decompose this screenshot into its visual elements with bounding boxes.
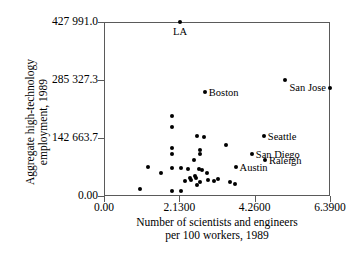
data-point <box>233 182 237 186</box>
y-axis-tick-label: 0.00 <box>0 190 98 202</box>
data-point <box>170 146 174 150</box>
x-axis-title-line1: Number of scientists and engineers <box>79 216 355 229</box>
data-point <box>195 134 199 138</box>
data-point <box>186 167 190 171</box>
data-point <box>170 125 174 129</box>
data-point <box>170 114 174 118</box>
data-point <box>216 177 220 181</box>
x-axis-title-line2: per 100 workers, 1989 <box>79 229 355 242</box>
y-axis-tick-label: 142 663.7 <box>0 132 98 144</box>
point-label-austin: Austin <box>240 161 268 172</box>
data-point <box>179 166 183 170</box>
data-point-boston <box>203 90 207 94</box>
data-point <box>198 152 202 156</box>
data-point <box>206 178 210 182</box>
point-label-raleigh: Raleigh <box>269 155 302 166</box>
y-axis-tick-label: 285 327.3 <box>0 74 98 86</box>
point-label-la: LA <box>173 26 187 37</box>
data-point <box>138 187 142 191</box>
data-point-seattle <box>262 134 266 138</box>
data-point <box>170 166 174 170</box>
data-point-austin <box>234 165 238 169</box>
data-point <box>179 189 183 193</box>
x-axis-tick-label: 2.1300 <box>139 201 219 213</box>
x-axis-tick-label: 0.00 <box>64 201 144 213</box>
data-point-san-jose <box>328 86 332 90</box>
data-point-san-diego <box>250 152 254 156</box>
data-point <box>198 180 202 184</box>
data-point <box>183 179 187 183</box>
data-point <box>200 168 204 172</box>
x-axis-tick-label: 4.2600 <box>215 201 295 213</box>
data-point <box>205 171 209 175</box>
data-point <box>170 152 174 156</box>
scatter-chart-figure: Aggregate high-technology employment, 19… <box>0 0 359 270</box>
data-point <box>192 158 196 162</box>
point-label-boston: Boston <box>209 87 239 98</box>
data-point <box>170 189 174 193</box>
point-label-seattle: Seattle <box>268 131 297 142</box>
plot-area: LASan JoseBostonSeattleSan DiegoRaleighA… <box>104 22 330 196</box>
data-point <box>195 183 199 187</box>
data-point <box>194 176 198 180</box>
data-point <box>159 171 163 175</box>
data-point <box>224 143 228 147</box>
x-axis-title: Number of scientists and engineers per 1… <box>79 216 355 242</box>
data-point <box>228 180 232 184</box>
y-axis-tick-label: 427 991.0 <box>0 16 98 28</box>
data-point <box>202 135 206 139</box>
data-point <box>146 165 150 169</box>
data-point-la <box>178 20 182 24</box>
x-axis-tick-label: 6.3900 <box>290 201 359 213</box>
data-point <box>189 178 193 182</box>
